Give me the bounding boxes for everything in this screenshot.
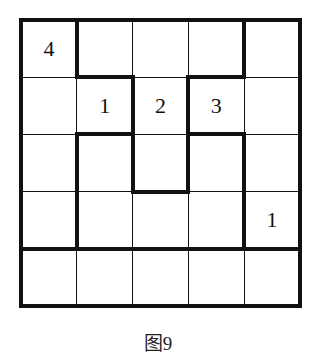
grid-line bbox=[244, 77, 300, 78]
grid-line bbox=[132, 20, 133, 77]
thick-region-border bbox=[131, 190, 191, 194]
grid-cell bbox=[188, 20, 244, 77]
grid-line bbox=[76, 77, 77, 134]
grid-cell bbox=[244, 249, 300, 306]
thick-region-border bbox=[131, 247, 191, 251]
grid-cell bbox=[21, 134, 77, 191]
grid-line bbox=[76, 249, 77, 306]
thick-region-border bbox=[75, 18, 79, 79]
grid-cell bbox=[244, 77, 300, 134]
grid-line bbox=[244, 77, 245, 134]
grid-cell bbox=[21, 249, 77, 306]
grid-cell bbox=[133, 192, 189, 249]
grid-cell bbox=[244, 134, 300, 191]
figure-caption: 图9 bbox=[0, 328, 316, 355]
outer-border-bottom bbox=[19, 304, 302, 308]
grid-line bbox=[133, 134, 189, 135]
grid-cell bbox=[188, 134, 244, 191]
grid-line bbox=[133, 77, 189, 78]
grid-line bbox=[21, 77, 77, 78]
thick-region-border bbox=[186, 132, 190, 193]
grid-line bbox=[188, 191, 244, 192]
thick-region-border bbox=[242, 190, 246, 251]
thick-region-border bbox=[19, 247, 79, 251]
grid-line bbox=[132, 192, 133, 249]
thick-region-border bbox=[75, 190, 79, 251]
thick-region-border bbox=[186, 132, 246, 136]
thick-region-border bbox=[186, 247, 246, 251]
grid-line bbox=[244, 249, 245, 306]
grid-cell: 3 bbox=[188, 77, 244, 134]
outer-border-left bbox=[19, 18, 23, 308]
grid-cell bbox=[133, 249, 189, 306]
grid-cell bbox=[77, 249, 133, 306]
grid-line bbox=[132, 249, 133, 306]
grid-cell: 1 bbox=[77, 77, 133, 134]
grid-cell bbox=[21, 77, 77, 134]
puzzle-grid: 41231 bbox=[21, 20, 300, 306]
grid-cell: 4 bbox=[21, 20, 77, 77]
thick-region-border bbox=[75, 75, 135, 79]
thick-region-border bbox=[131, 132, 135, 193]
grid-line bbox=[244, 191, 300, 192]
grid-line bbox=[188, 20, 189, 77]
grid-cell bbox=[244, 20, 300, 77]
thick-region-border bbox=[186, 75, 190, 136]
thick-region-border bbox=[242, 18, 246, 79]
thick-region-border bbox=[131, 75, 135, 136]
grid-cell bbox=[21, 192, 77, 249]
outer-border-right bbox=[298, 18, 302, 308]
grid-cell bbox=[77, 134, 133, 191]
thick-region-border bbox=[75, 132, 135, 136]
grid-cell bbox=[188, 249, 244, 306]
grid-cell bbox=[133, 20, 189, 77]
grid-line bbox=[188, 192, 189, 249]
grid-cell bbox=[188, 192, 244, 249]
grid-cell bbox=[133, 134, 189, 191]
thick-region-border bbox=[75, 132, 79, 193]
thick-region-border bbox=[75, 247, 135, 251]
grid-cell: 2 bbox=[133, 77, 189, 134]
grid-line bbox=[21, 134, 77, 135]
grid-cell bbox=[77, 20, 133, 77]
grid-line bbox=[77, 191, 133, 192]
grid-line bbox=[21, 191, 77, 192]
grid-cell bbox=[77, 192, 133, 249]
thick-region-border bbox=[242, 132, 246, 193]
grid-cell: 1 bbox=[244, 192, 300, 249]
outer-border-top bbox=[19, 18, 302, 22]
grid-line bbox=[188, 249, 189, 306]
thick-region-border bbox=[242, 247, 302, 251]
thick-region-border bbox=[186, 75, 246, 79]
grid-line bbox=[244, 134, 300, 135]
